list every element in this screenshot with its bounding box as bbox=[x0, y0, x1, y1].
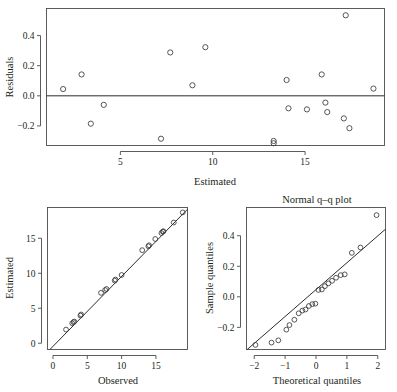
y-tick-label: −0.2 bbox=[17, 121, 34, 131]
data-point bbox=[79, 72, 84, 77]
data-point bbox=[101, 102, 106, 107]
panel2-x-ticks bbox=[53, 356, 156, 360]
data-point bbox=[88, 121, 93, 126]
x-tick-label: 5 bbox=[118, 157, 123, 167]
y-tick-label: 15 bbox=[26, 234, 36, 244]
panel3-x-tick-labels: −2−1012 bbox=[249, 361, 380, 371]
y-tick-label: 0.2 bbox=[223, 262, 235, 272]
x-tick-label: −2 bbox=[249, 361, 259, 371]
y-tick-label: 0.0 bbox=[23, 91, 35, 101]
data-point bbox=[341, 116, 346, 121]
panel3-title: Normal q–q plot bbox=[282, 194, 351, 205]
data-point bbox=[104, 287, 109, 292]
data-point bbox=[358, 245, 363, 250]
panel2-y-ticks bbox=[38, 238, 42, 343]
figure-canvas: 51015 −0.20.00.20.4 Estimated Residuals … bbox=[0, 0, 397, 392]
panel1-y-tick-labels: −0.20.00.20.4 bbox=[17, 31, 34, 131]
panel1-x-axis-title: Estimated bbox=[194, 176, 237, 187]
panel-estimated-vs-observed: 051015 051015 Observed Estimated bbox=[4, 208, 188, 387]
panel3-x-ticks bbox=[254, 356, 378, 360]
panel-normal-qq-plot: Normal q–q plot −2−1012 −0.20.00.20.4 Th… bbox=[204, 194, 386, 386]
panel3-x-axis-title: Theoretical quantiles bbox=[273, 375, 361, 386]
data-point bbox=[64, 327, 69, 332]
data-point bbox=[153, 237, 158, 242]
data-point bbox=[304, 107, 309, 112]
y-tick-label: 0.4 bbox=[23, 31, 35, 41]
data-point bbox=[313, 301, 318, 306]
data-point bbox=[284, 327, 289, 332]
data-point bbox=[276, 338, 281, 343]
panel2-x-tick-labels: 051015 bbox=[51, 361, 161, 371]
data-point bbox=[253, 343, 258, 348]
x-tick-label: 2 bbox=[375, 361, 380, 371]
x-tick-label: 10 bbox=[117, 361, 127, 371]
data-point bbox=[325, 109, 330, 114]
x-tick-label: 0 bbox=[51, 361, 56, 371]
panel2-y-axis-title: Estimated bbox=[4, 256, 15, 299]
panel1-y-ticks bbox=[37, 36, 41, 126]
data-point bbox=[158, 136, 163, 141]
x-tick-label: 15 bbox=[151, 361, 161, 371]
x-tick-label: 15 bbox=[300, 157, 310, 167]
data-point bbox=[347, 126, 352, 131]
panel1-x-ticks bbox=[120, 152, 305, 156]
x-tick-label: 0 bbox=[314, 361, 319, 371]
data-point bbox=[334, 275, 339, 280]
panel3-y-axis-title: Sample quantiles bbox=[204, 242, 215, 314]
x-tick-label: 10 bbox=[208, 157, 218, 167]
data-point bbox=[190, 83, 195, 88]
x-tick-label: 5 bbox=[85, 361, 90, 371]
y-tick-label: 0 bbox=[31, 339, 36, 349]
panel3-y-ticks bbox=[237, 236, 241, 328]
data-point bbox=[371, 86, 376, 91]
data-point bbox=[300, 308, 305, 313]
data-point bbox=[168, 50, 173, 55]
y-tick-label: 0.4 bbox=[223, 231, 235, 241]
data-point bbox=[292, 317, 297, 322]
data-point bbox=[287, 323, 292, 328]
panel3-frame bbox=[247, 208, 386, 350]
y-tick-label: 0.2 bbox=[23, 61, 35, 71]
y-tick-label: 10 bbox=[26, 269, 36, 279]
data-point bbox=[61, 86, 66, 91]
data-point bbox=[269, 340, 274, 345]
x-tick-label: −1 bbox=[280, 361, 290, 371]
diagnostic-plot-figure: 51015 −0.20.00.20.4 Estimated Residuals … bbox=[0, 0, 397, 392]
y-tick-label: −0.2 bbox=[217, 323, 234, 333]
data-point bbox=[323, 100, 328, 105]
data-point bbox=[374, 213, 379, 218]
y-tick-label: 5 bbox=[31, 304, 36, 314]
data-point bbox=[343, 13, 348, 18]
data-point bbox=[203, 45, 208, 50]
panel2-y-tick-labels: 051015 bbox=[26, 234, 36, 349]
panel2-x-axis-title: Observed bbox=[98, 375, 139, 386]
y-tick-label: 0.0 bbox=[223, 292, 235, 302]
panel3-data-points bbox=[253, 213, 379, 348]
panel1-frame bbox=[47, 9, 385, 146]
panel2-reference-line bbox=[50, 209, 188, 349]
panel-residuals-vs-estimated: 51015 −0.20.00.20.4 Estimated Residuals bbox=[4, 9, 385, 188]
panel3-y-tick-labels: −0.20.00.20.4 bbox=[217, 231, 234, 333]
panel2-data-points bbox=[64, 210, 185, 332]
data-point bbox=[319, 72, 324, 77]
panel1-data-points bbox=[61, 13, 377, 146]
data-point bbox=[140, 248, 145, 253]
x-tick-label: 1 bbox=[345, 361, 350, 371]
panel1-y-axis-title: Residuals bbox=[4, 57, 15, 98]
data-point bbox=[349, 250, 354, 255]
data-point bbox=[284, 77, 289, 82]
data-point bbox=[286, 106, 291, 111]
panel1-x-tick-labels: 51015 bbox=[118, 157, 310, 167]
